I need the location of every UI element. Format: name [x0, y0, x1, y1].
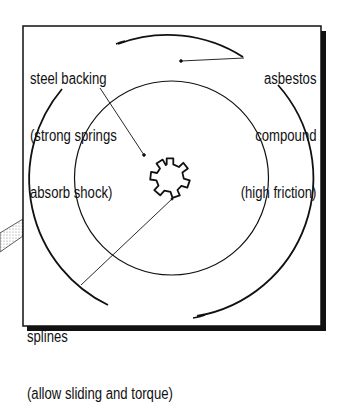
steel-backing-line-2: (strong springs	[30, 126, 117, 145]
splines-line-1: splines	[27, 327, 173, 346]
asbestos-line-1: asbestos	[240, 69, 316, 88]
asbestos-line-3: (high friction)	[240, 183, 316, 202]
label-steel-backing: steel backing (strong springs absorb sho…	[30, 31, 117, 240]
steel-backing-line-3: absorb shock)	[30, 183, 117, 202]
shaft-stub	[0, 219, 23, 252]
label-splines: splines (allow sliding and torque)	[27, 289, 173, 406]
label-asbestos-compound: asbestos compound (high friction)	[240, 31, 316, 240]
splines-line-2: (allow sliding and torque)	[27, 384, 173, 403]
steel-backing-line-1: steel backing	[30, 69, 117, 88]
asbestos-line-2: compound	[240, 126, 316, 145]
